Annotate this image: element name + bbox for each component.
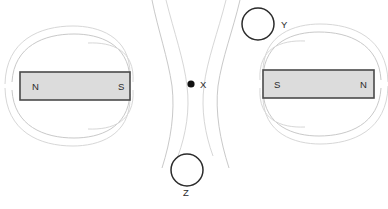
right-magnet: S N (263, 70, 374, 98)
marker-z-circle (171, 154, 203, 186)
field-lines-center-repulsion (152, 0, 240, 168)
marker-y-label: Y (281, 19, 288, 30)
field-line-center-right-1 (217, 0, 240, 168)
field-line-center-left-2 (166, 0, 188, 156)
left-magnet-south-label: S (118, 81, 124, 92)
diagram-canvas: N S S N X Y Z (0, 0, 388, 209)
marker-x: X (187, 79, 207, 90)
marker-x-label: X (200, 79, 207, 90)
left-magnet-north-label: N (32, 81, 39, 92)
right-magnet-north-label: N (360, 79, 367, 90)
left-magnet: N S (20, 72, 130, 100)
magnetic-field-diagram: N S S N X Y Z (0, 0, 388, 209)
marker-x-dot (187, 80, 194, 87)
field-line-center-right-2 (203, 0, 226, 156)
right-magnet-south-label: S (274, 79, 280, 90)
marker-y: Y (242, 8, 288, 40)
marker-z-label: Z (183, 187, 189, 198)
marker-y-circle (242, 8, 274, 40)
marker-z: Z (171, 154, 203, 198)
field-line-center-left-1 (152, 0, 173, 168)
